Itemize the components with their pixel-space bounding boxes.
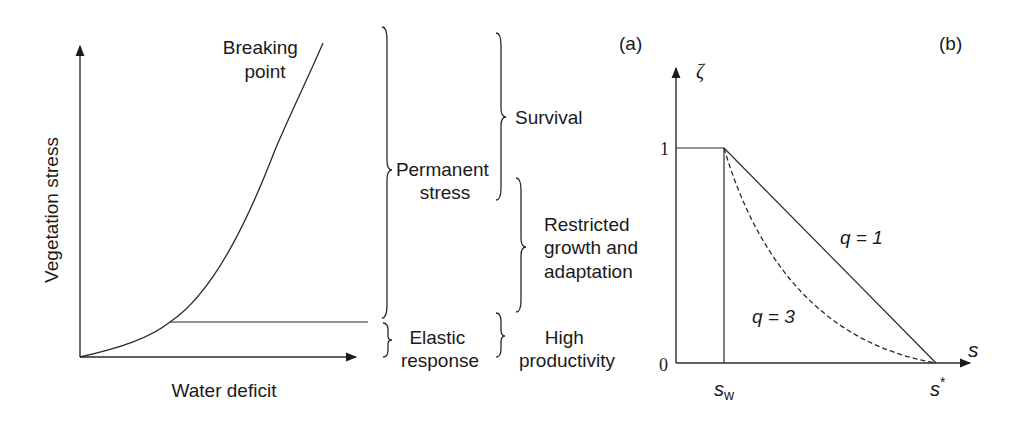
y-axis-label: Vegetation stress: [41, 137, 62, 283]
stress-curve: [80, 43, 323, 357]
brace-permanent-stress: [382, 27, 392, 318]
brace-elastic: [383, 323, 392, 357]
s-axis-label: s: [968, 338, 979, 361]
breaking-point-label: Breaking point: [223, 37, 303, 82]
panel-a: Vegetation stress Water deficit Breaking…: [41, 27, 643, 401]
q3-label: q = 3: [752, 306, 795, 327]
label-permanent-stress: Permanent stress: [396, 159, 494, 203]
y-tick-0: 0: [659, 355, 668, 375]
panel-b: ζ s 1 0 sw s* q = 1 q = 3 (b): [659, 33, 979, 403]
x-axis-label: Water deficit: [172, 380, 278, 401]
panel-b-label: (b): [939, 33, 962, 54]
label-elastic-response: Elastic response: [401, 327, 479, 371]
q1-line: [724, 148, 936, 363]
q1-label: q = 1: [840, 227, 883, 248]
x-tick-sw: sw: [714, 378, 735, 403]
x-tick-sstar: s*: [930, 374, 946, 400]
figure: Vegetation stress Water deficit Breaking…: [0, 0, 1023, 421]
brace-high-productivity: [496, 313, 505, 357]
y-tick-1: 1: [660, 139, 669, 159]
label-high-productivity: High productivity: [519, 327, 616, 371]
label-restricted-growth: Restricted growth and adaptation: [544, 214, 643, 282]
zeta-axis-label: ζ: [696, 60, 706, 83]
panel-a-label: (a): [619, 33, 642, 54]
brace-survival: [496, 33, 506, 200]
brace-restricted: [516, 178, 526, 312]
label-survival: Survival: [515, 107, 583, 128]
